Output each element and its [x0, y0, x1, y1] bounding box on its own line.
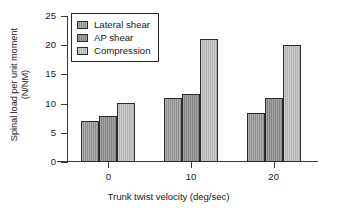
x-axis-tick-label: 20: [254, 172, 294, 182]
legend-item-ap-shear: AP shear: [77, 31, 151, 44]
y-axis-title-line2: (N/NM): [20, 28, 31, 141]
legend-item-lateral-shear: Lateral shear: [77, 18, 151, 31]
x-axis-tick-mark: [108, 162, 109, 168]
bar-ap-shear-0: [99, 116, 117, 162]
y-axis-tick-label: 5: [32, 128, 56, 138]
y-axis-tick-label: 20: [32, 40, 56, 50]
bar-compression-10: [200, 39, 218, 162]
bar-ap-shear-20: [265, 98, 283, 162]
legend-item-compression: Compression: [77, 44, 151, 57]
legend-swatch-icon-lateral-shear: [77, 21, 88, 29]
y-axis-title-line1: Spinal load per unit moment: [9, 28, 19, 141]
y-axis-tick-label: 0: [32, 157, 56, 167]
y-axis-title: Spinal load per unit moment (N/NM): [0, 0, 40, 170]
y-axis-tick-label: 25: [32, 11, 56, 21]
bar-compression-20: [283, 45, 301, 162]
legend-label-ap-shear: AP shear: [94, 33, 133, 43]
x-axis-tick-mark: [274, 162, 275, 168]
y-axis-tick-label: 10: [32, 99, 56, 109]
y-axis-tick-label: 15: [32, 69, 56, 79]
x-axis-tick-label: 10: [171, 172, 211, 182]
legend-label-lateral-shear: Lateral shear: [94, 20, 150, 30]
x-axis-tick-mark: [191, 162, 192, 168]
legend-box: Lateral shear AP shear Compression: [71, 13, 159, 62]
legend-label-compression: Compression: [94, 46, 151, 56]
bar-chart-figure: Spinal load per unit moment (N/NM) 05101…: [0, 0, 337, 212]
bar-lateral-shear-10: [164, 98, 182, 162]
y-axis-tick-mark: [61, 162, 68, 163]
x-axis-tick-label: 0: [88, 172, 128, 182]
bar-lateral-shear-20: [247, 113, 265, 162]
bar-ap-shear-10: [182, 94, 200, 162]
legend-swatch-icon-ap-shear: [77, 34, 88, 42]
x-axis-title: Trunk twist velocity (deg/sec): [0, 191, 337, 202]
bar-compression-0: [117, 103, 135, 162]
bar-lateral-shear-0: [81, 121, 99, 162]
legend-swatch-icon-compression: [77, 47, 88, 55]
